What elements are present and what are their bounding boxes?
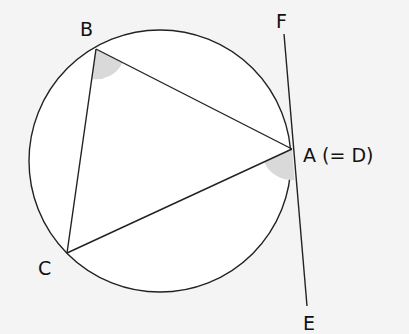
label-b: B	[80, 18, 93, 40]
diagram-canvas: B C F E A (= D)	[0, 0, 409, 334]
label-f: F	[276, 10, 287, 32]
label-c: C	[38, 257, 51, 279]
label-e: E	[303, 312, 315, 334]
geometry-figure: B C F E A (= D)	[0, 0, 409, 334]
label-a: A (= D)	[303, 144, 373, 166]
